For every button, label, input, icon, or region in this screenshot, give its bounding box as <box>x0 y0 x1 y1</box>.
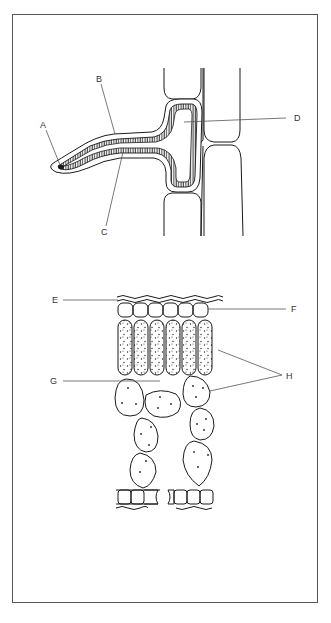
leader-h2 <box>210 375 282 391</box>
label-f: F <box>291 304 297 314</box>
leader-b <box>101 84 115 134</box>
upper-epidermis <box>118 303 208 317</box>
fungal-hypha <box>51 99 202 192</box>
label-h: H <box>286 371 293 381</box>
leaf-cross-section <box>115 296 223 510</box>
label-e: E <box>52 295 58 305</box>
diagram-canvas: A B C D <box>0 0 331 623</box>
label-a: A <box>40 120 46 130</box>
leader-h1 <box>218 350 282 375</box>
label-b: B <box>96 74 102 84</box>
leader-c <box>106 152 123 226</box>
cuticle-top <box>117 296 223 299</box>
palisade-layer <box>118 320 212 375</box>
label-c: C <box>101 227 108 237</box>
label-g: G <box>50 376 57 386</box>
label-d: D <box>294 113 301 123</box>
leader-a <box>46 130 60 165</box>
lower-epidermis <box>116 490 213 510</box>
spongy-mesophyll <box>115 376 214 488</box>
